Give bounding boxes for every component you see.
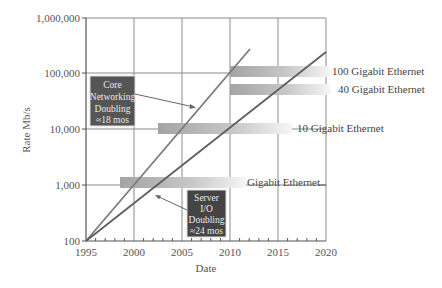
x-tick-2020: 2020 — [315, 246, 338, 258]
y-tick-10000: 10,000 — [50, 123, 81, 135]
server-line-4: ≈24 mos — [190, 226, 223, 236]
core-line-4: ≈18 mos — [96, 115, 129, 125]
x-tick-2005: 2005 — [171, 246, 194, 258]
y-tick-100000: 100,000 — [44, 67, 80, 79]
x-tick-1995: 1995 — [75, 246, 98, 258]
label-40-gigabit: 40 Gigabit Ethernet — [338, 83, 425, 95]
server-io-annotation: Server I/O Doubling ≈24 mos — [155, 190, 226, 237]
x-axis-title: Date — [196, 262, 217, 274]
x-tick-2000: 2000 — [123, 246, 146, 258]
core-line-1: Core — [103, 80, 121, 90]
y-tick-1000000: 1,000,000 — [36, 12, 81, 24]
y-tick-1000: 1,000 — [55, 179, 80, 191]
core-line-2: Networking — [90, 92, 136, 102]
core-line-3: Doubling — [95, 104, 131, 114]
bar-40-gigabit — [230, 84, 330, 95]
bar-100-gigabit — [230, 66, 330, 77]
server-line-3: Doubling — [189, 215, 225, 225]
server-line-1: Server — [194, 193, 220, 203]
label-100-gigabit: 100 Gigabit Ethernet — [332, 65, 424, 77]
label-gigabit: Gigabit Ethernet — [247, 176, 320, 188]
label-10-gigabit: 10 Gigabit Ethernet — [297, 122, 384, 134]
y-axis-title: Rate Mb/s — [20, 107, 32, 153]
core-networking-annotation: Core Networking Doubling ≈18 mos — [90, 76, 196, 126]
x-tick-2010: 2010 — [219, 246, 242, 258]
server-line-2: I/O — [200, 204, 213, 214]
x-tick-2015: 2015 — [267, 246, 290, 258]
chart: Core Networking Doubling ≈18 mos Server … — [0, 0, 442, 288]
